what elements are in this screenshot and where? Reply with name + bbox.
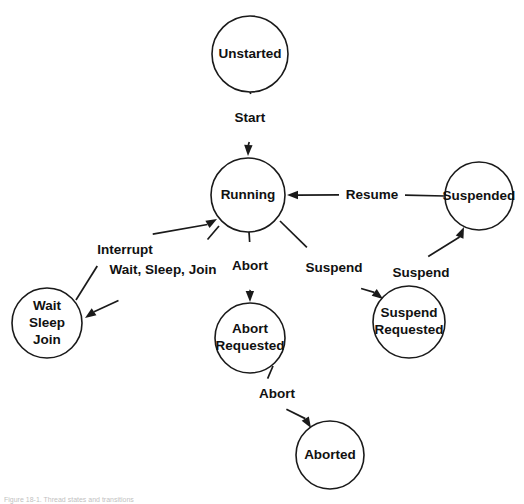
- edge-wait-sleep-join-t: Wait, Sleep, Join: [85, 226, 219, 318]
- state-label-line: Sleep: [29, 315, 65, 330]
- edges-layer: StartResumeAbortSuspendInterruptWait, Sl…: [76, 92, 464, 428]
- state-node-unstarted[interactable]: Unstarted: [212, 16, 288, 92]
- state-label-line: Requested: [374, 322, 443, 337]
- arrowhead-icon: [246, 291, 254, 302]
- arrowhead-icon: [205, 219, 217, 228]
- edge-interrupt: Interrupt: [76, 219, 217, 300]
- edge-suspend-running: Suspend: [280, 221, 383, 299]
- edge-line-segment: [208, 226, 219, 239]
- state-label-line: Unstarted: [218, 46, 281, 61]
- state-label-line: Suspend: [380, 305, 437, 320]
- state-label-line: Aborted: [304, 447, 356, 462]
- figure-caption: Figure 18-1. Thread states and transitio…: [4, 496, 134, 504]
- edge-start: Start: [235, 92, 266, 156]
- edge-label-abort-final: Abort: [259, 386, 295, 401]
- edge-line-segment: [248, 142, 249, 145]
- nodes-layer: UnstartedRunningSuspendedWaitSleepJoinAb…: [12, 16, 515, 489]
- edge-label-start: Start: [235, 110, 266, 125]
- edge-line-segment: [428, 237, 459, 256]
- state-label-line: Join: [33, 332, 61, 347]
- edge-label-resume: Resume: [346, 187, 399, 202]
- arrowhead-icon: [372, 289, 383, 299]
- arrowhead-icon: [244, 145, 252, 156]
- edge-line-segment: [153, 224, 208, 234]
- edge-line-segment: [76, 266, 97, 300]
- state-label-line: Wait: [33, 298, 61, 313]
- edge-line-segment: [361, 289, 374, 293]
- state-label-line: Suspended: [443, 188, 516, 203]
- arrowhead-icon: [85, 308, 96, 318]
- edge-label-interrupt: Interrupt: [97, 242, 153, 257]
- edge-resume: Resume: [287, 187, 445, 202]
- edge-line-segment: [286, 409, 305, 418]
- edge-abort-final: Abort: [259, 366, 311, 428]
- edge-label-wait-sleep-join-t: Wait, Sleep, Join: [110, 262, 217, 277]
- state-node-running[interactable]: Running: [211, 158, 285, 232]
- edge-abort-running: Abort: [232, 232, 268, 302]
- arrowhead-icon: [287, 191, 298, 199]
- state-label-line: Running: [221, 187, 276, 202]
- edge-label-suspend-pending: Suspend: [392, 265, 449, 280]
- edge-label-abort-running: Abort: [232, 258, 268, 273]
- edge-line-segment: [280, 221, 307, 247]
- arrowhead-icon: [456, 227, 464, 239]
- state-node-wait-sleep-join[interactable]: WaitSleepJoin: [12, 288, 82, 358]
- state-node-suspend-requested[interactable]: SuspendRequested: [373, 286, 445, 358]
- state-label-line: Abort: [232, 321, 268, 336]
- state-node-aborted[interactable]: Aborted: [296, 421, 364, 489]
- edge-line-segment: [405, 195, 445, 196]
- edge-line-segment: [249, 232, 250, 242]
- state-node-suspended[interactable]: Suspended: [443, 162, 516, 230]
- edge-label-suspend-running: Suspend: [305, 260, 362, 275]
- state-label-line: Requested: [215, 338, 284, 353]
- state-node-abort-requested[interactable]: AbortRequested: [215, 303, 285, 373]
- edge-line-segment: [94, 301, 118, 312]
